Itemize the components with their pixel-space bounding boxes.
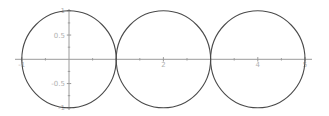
y-tick-label: 0.5 (54, 32, 65, 40)
x-tick-label: 4 (256, 61, 261, 69)
chart-plot: -124510.5-0.5-1 (0, 0, 329, 116)
y-tick-label: -1 (58, 104, 65, 112)
y-tick-label: -0.5 (51, 80, 65, 88)
x-tick-label: 2 (161, 61, 165, 69)
